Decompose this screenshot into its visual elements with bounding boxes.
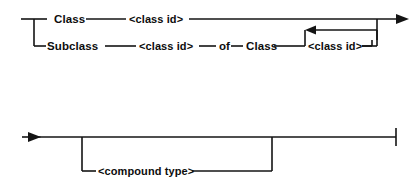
label-class-2: Class [246,40,277,52]
syntax-diagram-canvas: Class <class id> Subclass <class id> of … [0,0,416,183]
label-class: Class [54,13,85,25]
label-class-id-2: <class id> [139,40,193,52]
diagram-group-class-subclass: Class <class id> Subclass <class id> of … [21,13,409,52]
railroad-diagram-svg: Class <class id> Subclass <class id> of … [0,0,416,183]
label-compound-type: <compound type> [98,165,194,177]
label-class-id-1: <class id> [129,13,183,25]
label-subclass: Subclass [47,40,98,52]
label-class-id-3: <class id> [308,40,362,52]
exit-arrowhead-right-icon [396,14,409,24]
loop-arrowhead-left-icon [305,26,316,35]
diagram-group-compound-type: <compound type> [22,128,396,177]
label-of: of [219,40,230,52]
